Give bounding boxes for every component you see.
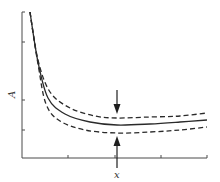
y-axis-label: A	[6, 91, 17, 99]
arrow-down-head-icon	[114, 104, 121, 114]
chart-figure: x A	[0, 0, 220, 182]
arrow-up-head-icon	[114, 136, 121, 146]
curves	[30, 12, 207, 133]
upper-dashed-curve	[30, 12, 207, 118]
lower-dashed-curve	[30, 12, 207, 133]
x-axis-label: x	[114, 169, 120, 180]
axes	[22, 12, 207, 158]
arrow-down	[114, 90, 121, 114]
arrow-up	[114, 136, 121, 168]
